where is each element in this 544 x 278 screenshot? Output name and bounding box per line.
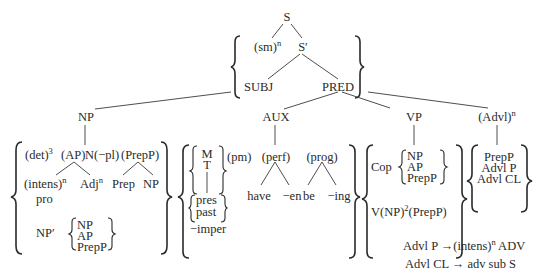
np-det: (det)3 — [25, 149, 53, 162]
aux-be: be — [303, 190, 315, 203]
rule-advl-cl: Advl CL → adv sub S — [405, 258, 516, 271]
aux-pm: (pm) — [227, 151, 251, 164]
v-np-text: V(NP) — [371, 205, 404, 219]
sm-text: (sm) — [254, 40, 277, 54]
np-intens: (intens)n — [24, 178, 66, 191]
aux-prog: (prog) — [306, 151, 337, 164]
phrase-structure-tree: S (sm)n S′ SUBJ PRED NP (det)3 (AP) N(−p… — [0, 0, 544, 278]
det-text: (det) — [25, 148, 49, 162]
aux-imper: −imper — [190, 223, 226, 236]
np-pro: pro — [36, 193, 53, 206]
node-advl: (Advl)n — [478, 111, 516, 124]
np-np: NP — [143, 178, 159, 191]
arrow-icon: → — [452, 257, 465, 271]
rule-lhs: Advl CL — [405, 257, 449, 271]
node-np: NP — [78, 111, 94, 124]
intens-superscript: n — [62, 175, 66, 185]
node-s: S — [284, 11, 291, 24]
np-n-pl: N(−pl) — [85, 149, 119, 162]
np-prime-opt-prepp: PrepP — [77, 241, 107, 254]
intens-text: (intens) — [24, 177, 62, 191]
np-adj: Adjn — [80, 178, 103, 191]
aux-en: −en — [283, 190, 302, 203]
node-pred: PRED — [322, 81, 354, 94]
vp-cop: Cop — [371, 161, 392, 174]
node-subj: SUBJ — [244, 81, 273, 94]
det-superscript: 3 — [49, 146, 53, 156]
advl-opt-advl-cl: Advl CL — [477, 173, 521, 186]
np-ap: (AP) — [61, 149, 85, 162]
np-prepp: (PrepP) — [121, 149, 159, 162]
node-vp: VP — [406, 111, 422, 124]
v-prepp-text: (PrepP) — [409, 205, 447, 219]
rule-lhs: Advl P — [403, 239, 438, 253]
aux-past: past — [196, 206, 216, 219]
advl-superscript: n — [512, 108, 516, 118]
arrow-icon: → — [441, 239, 454, 253]
np-prep: Prep — [112, 178, 135, 191]
aux-have: have — [247, 190, 271, 203]
np-prime: NP′ — [36, 227, 55, 240]
sm-superscript: n — [277, 38, 281, 48]
vp-cop-opt-prepp: PrepP — [407, 172, 437, 185]
aux-ing: −ing — [327, 190, 350, 203]
aux-t: T — [203, 159, 211, 172]
vp-v-row: V(NP)2(PrepP) — [371, 206, 447, 219]
aux-perf: (perf) — [262, 151, 290, 164]
rule-advl-p: Advl P →(intens)n ADV — [403, 240, 525, 253]
node-sm: (sm)n — [254, 41, 281, 54]
adj-text: Adj — [80, 177, 99, 191]
adj-superscript: n — [99, 175, 103, 185]
advl-text: (Advl) — [478, 110, 511, 124]
node-aux: AUX — [262, 111, 289, 124]
rule-rhs-tail: ADV — [496, 239, 526, 253]
node-s-prime: S′ — [298, 41, 308, 54]
rule-rhs: adv sub S — [467, 257, 516, 271]
rule-rhs: (intens) — [453, 239, 491, 253]
